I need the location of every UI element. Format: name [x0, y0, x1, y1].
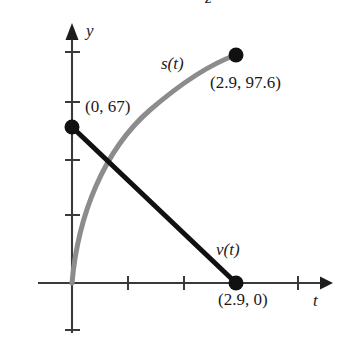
point-v-start: [65, 120, 80, 135]
point-v-end: [229, 276, 244, 291]
math-figure: z: [0, 0, 341, 349]
point-s-end: [229, 48, 244, 63]
v-line: [72, 127, 236, 283]
plot-canvas: [0, 0, 341, 349]
point-label-2-9-97-6: (2.9, 97.6): [210, 74, 281, 91]
y-axis: [65, 23, 80, 333]
s-curve-label: s(t): [161, 55, 184, 72]
point-label-0-67: (0, 67): [85, 98, 130, 115]
y-axis-label: y: [86, 22, 94, 39]
point-label-2-9-0: (2.9, 0): [218, 291, 268, 308]
x-axis: [38, 276, 333, 290]
x-axis-label: t: [313, 292, 318, 309]
v-line-label: v(t): [216, 241, 240, 258]
